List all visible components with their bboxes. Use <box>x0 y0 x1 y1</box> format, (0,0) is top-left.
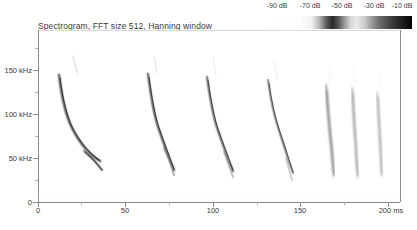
x-tick-label-100: 100 <box>207 206 220 215</box>
x-tick-label-200: 200 ms <box>379 206 404 215</box>
chirp-7 <box>377 73 382 176</box>
chirp-4 <box>268 61 293 180</box>
plot-frame-right <box>400 30 401 202</box>
x-tick-label-150: 150 <box>294 206 307 215</box>
x-tick-label-50: 50 <box>121 206 129 215</box>
colorbar-tick-4: -10 dB <box>392 2 413 9</box>
colorbar-gradient-strip <box>262 16 412 29</box>
chirp-1 <box>59 56 102 170</box>
x-axis-line <box>38 202 400 203</box>
y-tick-label-50: 50 kHz <box>9 154 32 163</box>
spectrogram-figure: Spectrogram, FFT size 512, Hanning windo… <box>0 0 417 230</box>
amplitude-colorbar: -90 dB -70 dB -50 dB -30 dB -10 dB <box>262 2 412 29</box>
colorbar-tick-3: -30 dB <box>364 2 385 9</box>
spectrogram-data-layer <box>38 30 400 202</box>
y-tick-label-100: 100 kHz <box>4 110 32 119</box>
noise-floor <box>38 188 400 202</box>
chirp-6 <box>352 68 358 177</box>
colorbar-tick-2: -50 dB <box>332 2 353 9</box>
chirp-3 <box>207 58 233 177</box>
y-origin-label: 0 <box>28 198 32 207</box>
x-tick-minor-125 <box>257 202 258 205</box>
colorbar-tick-1: -70 dB <box>300 2 321 9</box>
chirp-2 <box>148 56 174 175</box>
x-tick-minor-75 <box>169 202 170 205</box>
x-tick-minor-175 <box>344 202 345 205</box>
colorbar-tick-0: -90 dB <box>267 2 288 9</box>
chirp-5 <box>326 65 334 176</box>
x-tick-minor-25 <box>81 202 82 205</box>
x-tick-label-0: 0 <box>36 206 40 215</box>
colorbar-tick-labels: -90 dB -70 dB -50 dB -30 dB -10 dB <box>262 2 412 15</box>
y-tick-label-150: 150 kHz <box>4 66 32 75</box>
